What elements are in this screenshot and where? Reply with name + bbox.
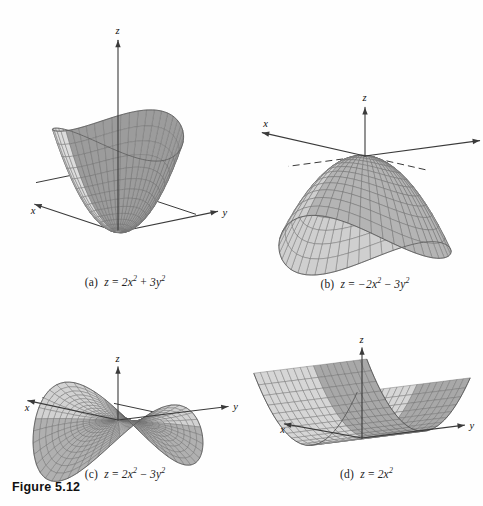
caption-a-lhs: z (104, 276, 109, 288)
caption-a-exp1: 2 (133, 274, 137, 283)
axis-label-y: y (232, 401, 238, 412)
caption-c-lhs: z (104, 468, 109, 480)
surface-mesh (279, 155, 451, 275)
caption-b-term1: −2x (358, 278, 377, 290)
caption-d-term1: 2x (378, 468, 389, 480)
plot-a-svg: zyx (0, 0, 250, 278)
caption-c-term1: 2x (122, 468, 133, 480)
caption-a-exp2: 2 (161, 274, 165, 283)
caption-a-term2: 3y (150, 276, 161, 288)
caption-d-tag: (d) (340, 468, 354, 480)
axis-line (262, 133, 365, 156)
axis-arrowhead (115, 40, 120, 47)
axis-label-x: x (24, 402, 30, 413)
caption-c-op: − (140, 468, 147, 480)
axis-label-x: x (30, 205, 36, 216)
caption-c-tag: (c) (85, 468, 98, 480)
caption-b: (b) z = −2x2 − 3y2 (247, 278, 483, 290)
figure-page: zyx (a) z = 2x2 + 3y2 zyx (b) z = −2x2 −… (0, 0, 483, 506)
panel-c-hyperbolic-paraboloid: zyx (0, 348, 250, 470)
caption-b-tag: (b) (320, 278, 334, 290)
axis-label-x: x (279, 424, 285, 435)
caption-b-exp1: 2 (377, 276, 381, 285)
axis-arrowhead (362, 107, 367, 114)
axis-label-x: x (262, 118, 268, 129)
caption-b-eqsign: = (348, 278, 355, 290)
caption-a: (a) z = 2x2 + 3y2 (0, 276, 250, 288)
plot-c-svg: zyx (0, 348, 250, 470)
axis-label-z: z (362, 92, 367, 103)
caption-c-exp1: 2 (133, 466, 137, 475)
caption-a-op: + (140, 276, 147, 288)
axis-line (365, 141, 480, 156)
axis-arrowhead (210, 210, 217, 215)
caption-b-lhs: z (341, 278, 346, 290)
axis-arrowhead (35, 204, 42, 209)
caption-c: (c) z = 2x2 − 3y2 (0, 468, 250, 480)
caption-b-exp2: 2 (406, 276, 410, 285)
caption-d-eqsign: = (368, 468, 375, 480)
caption-c-exp2: 2 (161, 466, 165, 475)
panel-a-elliptic-paraboloid-up: zyx (0, 0, 250, 300)
axis-arrowhead (115, 367, 120, 374)
caption-d-lhs: z (360, 468, 365, 480)
panel-d-parabolic-cylinder: zyx (250, 340, 483, 470)
plot-d-svg: zyx (250, 340, 483, 470)
caption-d-exp1: 2 (389, 466, 393, 475)
caption-d: (d) z = 2x2 (250, 468, 483, 480)
axis-label-y: y (222, 207, 228, 218)
caption-a-eqsign: = (112, 276, 119, 288)
axis-label-z: z (115, 25, 120, 36)
axis-arrowhead (457, 423, 464, 428)
axis-label-y: y (469, 420, 475, 431)
plot-b-svg: zyx (247, 96, 483, 281)
caption-a-term1: 2x (122, 276, 133, 288)
caption-b-op: − (384, 278, 391, 290)
axis-label-z: z (359, 334, 364, 345)
figure-label: Figure 5.12 (12, 480, 80, 494)
panel-b-elliptic-paraboloid-down: zyx (247, 96, 483, 286)
axis-label-z: z (115, 353, 120, 364)
caption-c-eqsign: = (112, 468, 119, 480)
caption-b-term2: 3y (394, 278, 405, 290)
axis-arrowhead (359, 348, 364, 355)
caption-a-tag: (a) (85, 276, 98, 288)
axis-arrowhead (472, 139, 479, 144)
caption-c-term2: 3y (150, 468, 161, 480)
axis-arrowhead (221, 405, 228, 410)
